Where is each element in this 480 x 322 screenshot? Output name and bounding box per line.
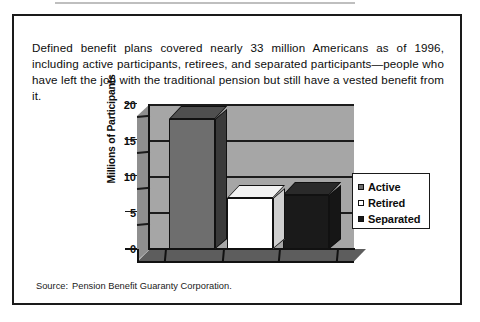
chart-legend: Active Retired Separated (352, 173, 430, 229)
gridline-20 (149, 104, 354, 106)
tick-leader-5 (125, 204, 137, 212)
legend-swatch-retired-icon (358, 200, 364, 206)
bar-separated (283, 195, 329, 249)
legend-item-active: Active (358, 179, 429, 194)
legend-swatch-separated-icon (358, 216, 364, 222)
bar-retired-side (273, 188, 285, 249)
figure-caption: Defined benefit plans covered nearly 33 … (32, 40, 444, 105)
y-axis-line (148, 104, 150, 250)
bar-retired (227, 198, 273, 249)
source-value: Pension Benefit Guaranty Corporation. (72, 281, 232, 291)
legend-item-retired: Retired (358, 195, 429, 210)
tick-leader-20 (125, 96, 137, 104)
legend-label-separated: Separated (368, 213, 420, 225)
figure-box: Defined benefit plans covered nearly 33 … (12, 14, 462, 305)
legend-item-separated: Separated (358, 211, 429, 226)
tick-leader-10 (125, 168, 137, 176)
figure-source: Source:Pension Benefit Guaranty Corporat… (36, 281, 232, 291)
bar-active-face (169, 119, 215, 249)
source-label: Source: (36, 281, 68, 291)
bar-separated-side (329, 185, 341, 249)
scan-artifact-line (55, 2, 355, 4)
y-axis-tick-labels: 0 5 10 15 20 (114, 104, 136, 269)
bar-separated-face (283, 195, 329, 249)
floor-left-edge (137, 249, 139, 262)
legend-label-retired: Retired (368, 197, 405, 209)
bar-retired-face (227, 198, 273, 249)
bar-active-side (215, 109, 227, 249)
floor-front-edge (137, 261, 354, 263)
legend-label-active: Active (368, 181, 400, 193)
legend-swatch-active-icon (358, 184, 364, 190)
plot-3d-shell (137, 104, 364, 269)
bar-active (169, 119, 215, 249)
tick-leader-15 (125, 132, 137, 140)
tick-leader-0 (125, 248, 137, 250)
